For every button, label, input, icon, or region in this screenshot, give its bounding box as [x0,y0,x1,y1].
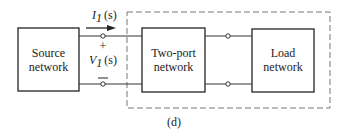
load-network-box: Load network [252,29,314,92]
source-label-line2: network [29,60,68,74]
figure-caption: (d) [167,115,181,129]
load-label-line1: Load [271,46,296,60]
twoport-label-line1: Two-port [151,46,196,60]
current-arrow-icon [86,25,116,31]
terminal-node [226,82,230,86]
two-port-network-box: Two-port network [142,28,205,92]
terminal-node [101,82,105,86]
source-label-line1: Source [32,46,65,60]
load-label-line2: network [263,60,302,74]
terminal-node [226,34,230,38]
terminal-node [101,34,105,38]
voltage-label: V1(s) [89,53,117,70]
twoport-label-line2: network [154,60,193,74]
two-port-diagram: Source network Two-port network Load net… [0,0,351,137]
current-label: I1(s) [91,8,117,25]
source-network-box: Source network [18,28,79,91]
plus-sign: + [100,39,107,53]
